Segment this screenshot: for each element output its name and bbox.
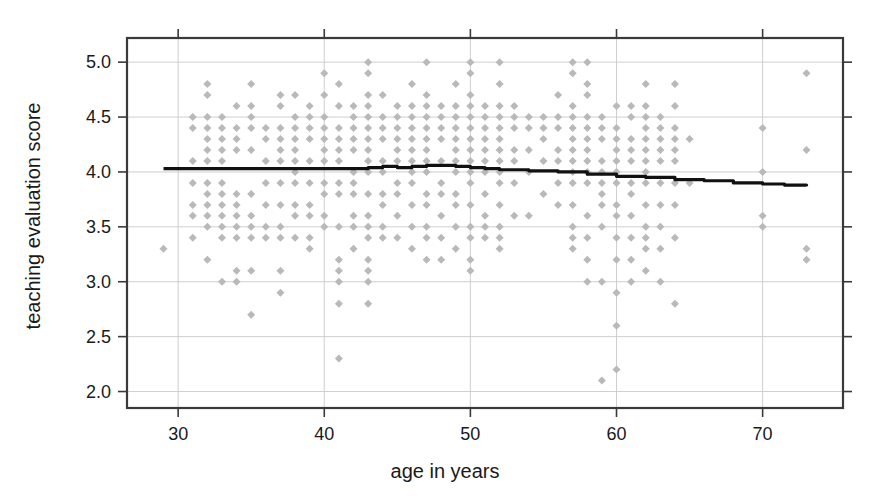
data-point — [291, 124, 299, 132]
data-point — [408, 102, 416, 110]
x-axis-title: age in years — [391, 460, 500, 482]
data-point — [598, 190, 606, 198]
data-point — [510, 113, 518, 121]
data-point — [627, 102, 635, 110]
data-point — [320, 91, 328, 99]
data-point — [437, 135, 445, 143]
data-point — [496, 146, 504, 154]
data-point — [452, 245, 460, 253]
data-point — [203, 157, 211, 165]
data-point — [247, 190, 255, 198]
data-point — [525, 113, 533, 121]
data-point — [613, 234, 621, 242]
data-point — [452, 135, 460, 143]
data-point — [276, 234, 284, 242]
data-point — [379, 223, 387, 231]
data-point — [466, 256, 474, 264]
data-point — [466, 157, 474, 165]
data-point — [423, 102, 431, 110]
data-point — [642, 179, 650, 187]
data-point — [569, 179, 577, 187]
data-point — [160, 245, 168, 253]
data-point — [262, 234, 270, 242]
data-point — [671, 157, 679, 165]
data-point — [569, 113, 577, 121]
data-point — [218, 146, 226, 154]
data-point — [613, 179, 621, 187]
data-point — [291, 157, 299, 165]
scatter-plot-figure: 2.02.53.03.54.04.55.03040506070 age in y… — [0, 0, 890, 498]
data-point — [671, 146, 679, 154]
data-point — [247, 212, 255, 220]
data-points-group — [160, 58, 811, 384]
data-point — [525, 124, 533, 132]
data-point — [291, 212, 299, 220]
data-point — [554, 91, 562, 99]
data-point — [189, 124, 197, 132]
x-tick-label: 30 — [168, 424, 188, 444]
data-point — [423, 91, 431, 99]
data-point — [335, 146, 343, 154]
data-point — [613, 146, 621, 154]
data-point — [466, 124, 474, 132]
data-point — [247, 146, 255, 154]
data-point — [320, 113, 328, 121]
data-point — [218, 124, 226, 132]
data-point — [452, 102, 460, 110]
data-point — [335, 102, 343, 110]
data-point — [496, 223, 504, 231]
data-point — [364, 146, 372, 154]
data-point — [642, 102, 650, 110]
data-point — [437, 212, 445, 220]
data-point — [613, 256, 621, 264]
data-point — [583, 234, 591, 242]
data-point — [583, 113, 591, 121]
data-point — [349, 135, 357, 143]
data-point — [247, 311, 255, 319]
data-point — [349, 245, 357, 253]
data-point — [218, 157, 226, 165]
data-point — [306, 102, 314, 110]
data-point — [642, 245, 650, 253]
data-point — [320, 69, 328, 77]
data-point — [539, 124, 547, 132]
data-point — [233, 212, 241, 220]
data-point — [203, 124, 211, 132]
data-point — [276, 124, 284, 132]
data-point — [437, 256, 445, 264]
x-tick-label: 50 — [460, 424, 480, 444]
data-point — [627, 157, 635, 165]
data-point — [802, 69, 810, 77]
data-point — [393, 212, 401, 220]
data-point — [554, 157, 562, 165]
data-point — [349, 113, 357, 121]
data-point — [276, 289, 284, 297]
data-point — [686, 135, 694, 143]
data-point — [496, 201, 504, 209]
data-point — [408, 201, 416, 209]
data-point — [233, 135, 241, 143]
data-point — [613, 366, 621, 374]
data-point — [364, 267, 372, 275]
data-point — [569, 146, 577, 154]
data-point — [539, 135, 547, 143]
data-point — [656, 223, 664, 231]
data-point — [262, 124, 270, 132]
data-point — [437, 113, 445, 121]
data-point — [379, 190, 387, 198]
data-point — [496, 234, 504, 242]
data-point — [583, 157, 591, 165]
data-point — [218, 190, 226, 198]
data-point — [423, 135, 431, 143]
data-point — [583, 135, 591, 143]
data-point — [189, 113, 197, 121]
data-point — [569, 135, 577, 143]
data-point — [408, 135, 416, 143]
data-point — [218, 212, 226, 220]
data-point — [583, 212, 591, 220]
data-point — [393, 179, 401, 187]
data-point — [233, 102, 241, 110]
y-tick-label: 2.5 — [86, 327, 111, 347]
data-point — [291, 179, 299, 187]
data-point — [203, 146, 211, 154]
